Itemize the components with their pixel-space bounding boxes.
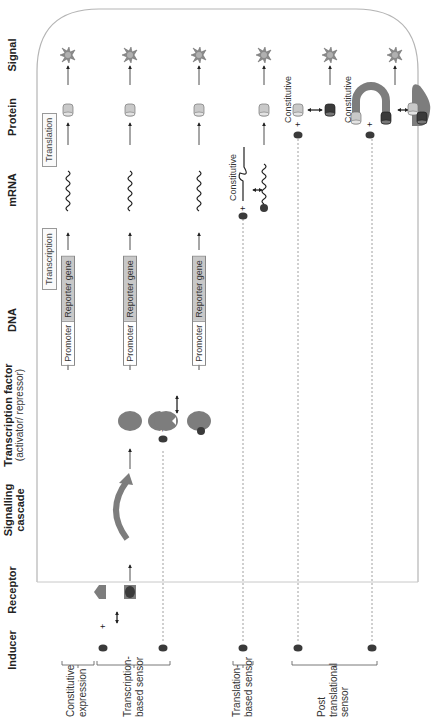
- gene-construct-row3: PromoterReporter gene: [192, 256, 206, 366]
- biosensor-diagram: Inducer Receptor Signallingcascade Trans…: [0, 0, 434, 721]
- row-post-translational-b: +: [351, 47, 430, 652]
- constitutive-label-post-translational-a: Constitutive: [283, 76, 293, 123]
- row-post-translational-a: +: [293, 47, 337, 652]
- row-label-translation-sensor: Translation-based sensor: [231, 657, 254, 717]
- row-translation-sensor: +: [238, 47, 271, 652]
- row-label-constitutive-expression: Constitutiveexpression: [65, 665, 88, 717]
- constitutive-label-post-translational-b: Constitutive: [343, 76, 353, 123]
- row-label-transcription-sensor: Transcription-based sensor: [122, 656, 145, 717]
- gene-construct-row1: PromoterReporter gene: [61, 256, 75, 366]
- svg-text:+: +: [293, 122, 303, 127]
- constitutive-label-translation: Constitutive: [228, 154, 238, 201]
- gene-construct-row2: PromoterReporter gene: [123, 256, 137, 366]
- svg-text:+: +: [365, 122, 375, 127]
- svg-text:+: +: [238, 206, 248, 211]
- svg-text:+: +: [98, 624, 108, 629]
- row-label-post-translational-sensor: Posttranslationalsensor: [316, 663, 351, 717]
